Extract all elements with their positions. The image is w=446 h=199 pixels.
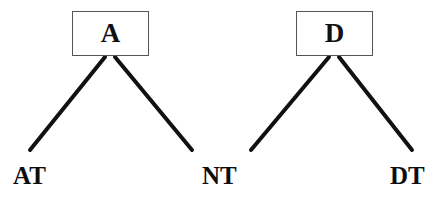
leaf-label-nt: NT (202, 163, 237, 188)
leaf-label-dt: DT (390, 163, 425, 188)
edge-a-to-nt (115, 57, 192, 150)
node-label-d: D (325, 20, 345, 47)
node-label-a: A (101, 20, 121, 47)
leaf-label-at: AT (13, 163, 46, 188)
edge-a-to-at (30, 57, 105, 150)
edge-d-to-nt (251, 57, 329, 150)
edge-d-to-dt (339, 57, 412, 150)
node-box-a: A (72, 11, 149, 56)
node-box-d: D (296, 11, 373, 56)
diagram-canvas: A D AT NT DT (0, 0, 446, 199)
